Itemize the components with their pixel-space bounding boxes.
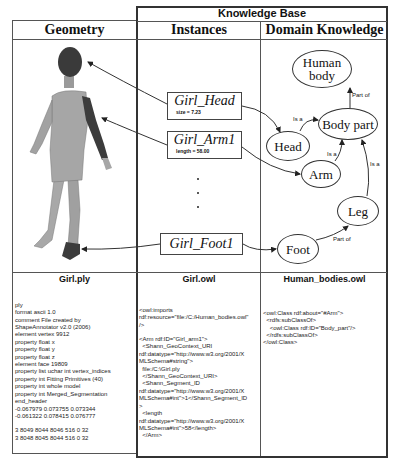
instance-attribute: size = 7.23 (168, 109, 241, 115)
instance-girl-foot1[interactable]: Girl_Foot1 (160, 233, 243, 255)
node-foot[interactable]: Foot (277, 234, 319, 264)
edge-label-is-a: Is a (370, 161, 380, 167)
file-name-ply: Girl.ply (12, 274, 137, 284)
node-head[interactable]: Head (266, 131, 310, 161)
edge-label-part-of: Part of (333, 236, 351, 242)
instance-girl-arm1[interactable]: Girl_Arm1 length = 58.00 (167, 131, 242, 159)
edge-label-is-a: Is a (327, 151, 337, 157)
edge-label-is-a: Is a (293, 116, 303, 122)
file-name-girl-owl: Girl.owl (137, 274, 261, 284)
node-human-body[interactable]: Human body (292, 50, 352, 88)
knowledge-base-title: Knowledge Base (138, 7, 386, 19)
node-body-part[interactable]: Body part (318, 108, 378, 140)
girl-owl-file-content: <owl:importsrdf:resource="file:/C:/Human… (139, 292, 248, 447)
instance-name: Girl_Arm1 (168, 132, 241, 148)
geometry-header: Geometry (12, 22, 137, 38)
edge-label-part-of: Part of (352, 92, 370, 98)
node-leg[interactable]: Leg (337, 196, 379, 226)
instance-attribute: length = 58.00 (168, 148, 241, 154)
instance-girl-head[interactable]: Girl_Head size = 7.23 (167, 92, 242, 120)
ellipsis-dot (197, 178, 199, 180)
ellipsis-dot (197, 192, 199, 194)
instance-name: Girl_Foot1 (161, 234, 242, 254)
file-name-human-bodies-owl: Human_bodies.owl (261, 274, 388, 284)
node-arm[interactable]: Arm (301, 160, 341, 188)
instances-header: Instances (137, 22, 261, 38)
human-bodies-owl-file-content: <owl:Class rdf:about="#Arm"> <rdfs:subCl… (263, 295, 355, 354)
ply-file-content: plyformat ascii 1.0comment File created … (15, 287, 111, 450)
human-model-figure (12, 40, 138, 272)
divider (260, 22, 261, 456)
instance-name: Girl_Head (168, 93, 241, 109)
ellipsis-dot (197, 206, 199, 208)
domain-knowledge-header: Domain Knowledge (261, 22, 388, 38)
divider (12, 272, 387, 273)
